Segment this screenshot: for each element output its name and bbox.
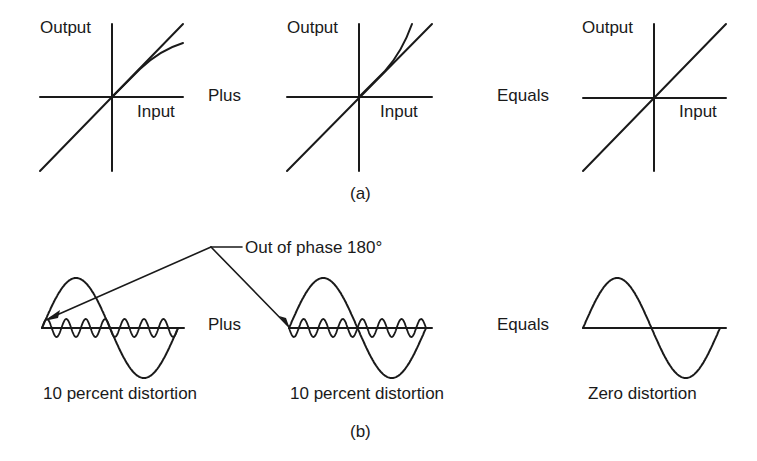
graph-3-x-label: Input — [679, 103, 717, 120]
graph-3-y-label: Output — [582, 19, 633, 36]
wave-2-label: 10 percent distortion — [290, 385, 444, 402]
operator-equals-a: Equals — [497, 87, 549, 104]
graph-2-expansive — [287, 24, 432, 171]
graph-2-x-label: Input — [380, 103, 418, 120]
harmonic-wave — [289, 319, 426, 337]
wave-3-label: Zero distortion — [588, 385, 697, 402]
wave-1-distorted — [42, 278, 184, 378]
wave-3-clean — [583, 278, 726, 378]
expansive-curve — [359, 24, 412, 97]
operator-equals-b: Equals — [497, 316, 549, 333]
caption-b: (b) — [350, 423, 371, 440]
graph-1-y-label: Output — [40, 19, 91, 36]
wave-1-label: 10 percent distortion — [43, 385, 197, 402]
caption-a: (a) — [350, 185, 371, 202]
operator-plus-b: Plus — [208, 316, 241, 333]
graph-3-linear — [583, 24, 726, 171]
wave-2-inverted — [289, 278, 432, 378]
compressive-curve — [112, 43, 183, 97]
operator-plus-a: Plus — [208, 87, 241, 104]
phase-callout-label: Out of phase 180° — [245, 239, 382, 256]
callout-arrows — [50, 247, 288, 326]
graph-1-compressive — [40, 24, 183, 171]
graph-1-x-label: Input — [137, 103, 175, 120]
graph-2-y-label: Output — [287, 19, 338, 36]
